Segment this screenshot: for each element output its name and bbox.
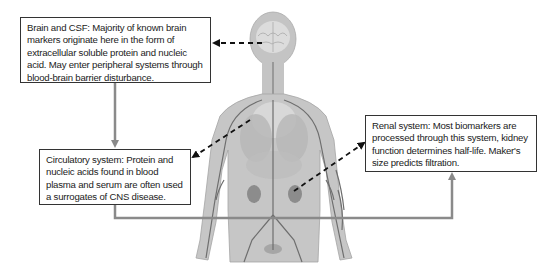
brain-csf-box: Brain and CSF: Majority of known brain m… [20,17,211,83]
diagram-canvas: Brain and CSF: Majority of known brain m… [0,0,553,269]
brain-csf-text: Brain and CSF: Majority of known brain m… [27,22,204,84]
circulatory-system-text: Circulatory system: Protein and nucleic … [46,154,184,204]
renal-system-text: Renal system: Most biomarkers are proces… [372,120,530,170]
human-body-icon [196,12,352,262]
circulatory-system-box: Circulatory system: Protein and nucleic … [39,149,191,205]
renal-system-box: Renal system: Most biomarkers are proces… [365,115,537,172]
